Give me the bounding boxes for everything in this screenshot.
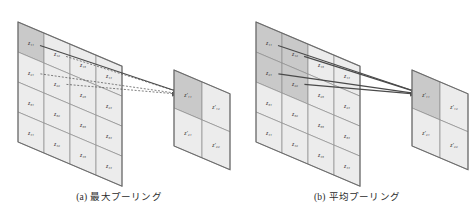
average-pooling-input-label-z41: z₄₁ xyxy=(265,130,272,136)
max-pooling-input-label-z13: z₁₃ xyxy=(79,62,86,68)
max-pooling-input-label-z14: z₁₄ xyxy=(105,73,112,79)
max-pooling-input-label-z32: z₃₂ xyxy=(53,111,60,117)
average-pooling-input-cells: z₁₁z₁₂z₁₃z₁₄z₂₁z₂₂z₂₃z₂₄z₃₁z₃₂z₃₃z₃₄z₄₁z… xyxy=(256,22,360,186)
caption-panel-b: (b)平均プーリング xyxy=(238,189,476,203)
caption-b-text: 平均プーリング xyxy=(329,192,400,202)
caption-a-text: 最大プーリング xyxy=(90,192,161,202)
max-pooling-input-label-z22: z₂₂ xyxy=(53,81,60,87)
average-pooling-output-label-zp22: z′₂₂ xyxy=(449,142,457,148)
average-pooling-input-label-z42: z₄₂ xyxy=(291,141,298,147)
average-pooling-input-label-z33: z₃₃ xyxy=(317,122,324,128)
max-pooling-output-cells: z′₁₁z′₁₂z′₂₁z′₂₂ xyxy=(174,70,230,170)
max-pooling-input-label-z43: z₄₃ xyxy=(79,152,86,158)
max-pooling-input-label-z33: z₃₃ xyxy=(79,122,86,128)
caption-b-label: (b) xyxy=(314,192,326,202)
average-pooling-input-label-z11: z₁₁ xyxy=(265,40,272,46)
average-pooling-output-cells: z′₁₁z′₁₂z′₂₁z′₂₂ xyxy=(412,70,468,170)
max-pooling-output-label-zp22: z′₂₂ xyxy=(211,142,219,148)
max-pooling-input-label-z44: z₄₄ xyxy=(105,163,112,169)
max-pooling-input-label-z23: z₂₃ xyxy=(79,92,86,98)
max-pooling-input-label-z31: z₃₁ xyxy=(27,100,34,106)
panel-max-pooling: z₁₁z₁₂z₁₃z₁₄z₂₁z₂₂z₂₃z₂₄z₃₁z₃₂z₃₃z₃₄z₄₁z… xyxy=(18,22,230,186)
average-pooling-input-label-z34: z₃₄ xyxy=(343,133,350,139)
max-pooling-input-label-z11: z₁₁ xyxy=(27,40,34,46)
average-pooling-output-label-zp12: z′₁₂ xyxy=(449,104,457,110)
max-pooling-input-label-z34: z₃₄ xyxy=(105,133,112,139)
caption-a-label: (a) xyxy=(76,192,87,202)
max-pooling-output-label-zp21: z′₂₁ xyxy=(183,130,191,136)
caption-row: (a)最大プーリング (b)平均プーリング xyxy=(0,189,476,203)
max-pooling-input-label-z42: z₄₂ xyxy=(53,141,60,147)
max-pooling-input-label-z41: z₄₁ xyxy=(27,130,34,136)
average-pooling-input-label-z31: z₃₁ xyxy=(265,100,272,106)
average-pooling-input-label-z22: z₂₂ xyxy=(291,81,298,87)
max-pooling-output-label-zp12: z′₁₂ xyxy=(211,104,219,110)
max-pooling-input-label-z24: z₂₄ xyxy=(105,103,112,109)
max-pooling-output-label-zp11: z′₁₁ xyxy=(183,92,191,98)
average-pooling-output-label-zp21: z′₂₁ xyxy=(421,130,429,136)
average-pooling-input-label-z21: z₂₁ xyxy=(265,70,272,76)
average-pooling-input-label-z44: z₄₄ xyxy=(343,163,350,169)
pooling-figure: z₁₁z₁₂z₁₃z₁₄z₂₁z₂₂z₂₃z₂₄z₃₁z₃₂z₃₃z₃₄z₄₁z… xyxy=(0,0,476,219)
max-pooling-input-label-z21: z₂₁ xyxy=(27,70,34,76)
average-pooling-input-label-z14: z₁₄ xyxy=(343,73,350,79)
average-pooling-output-label-zp11: z′₁₁ xyxy=(421,92,429,98)
average-pooling-input-label-z23: z₂₃ xyxy=(317,92,324,98)
panel-average-pooling: z₁₁z₁₂z₁₃z₁₄z₂₁z₂₂z₂₃z₂₄z₃₁z₃₂z₃₃z₃₄z₄₁z… xyxy=(256,22,468,186)
average-pooling-input-label-z32: z₃₂ xyxy=(291,111,298,117)
figure-canvas: z₁₁z₁₂z₁₃z₁₄z₂₁z₂₂z₂₃z₂₄z₃₁z₃₂z₃₃z₃₄z₄₁z… xyxy=(0,0,476,219)
average-pooling-input-label-z43: z₄₃ xyxy=(317,152,324,158)
average-pooling-input-label-z24: z₂₄ xyxy=(343,103,350,109)
caption-panel-a: (a)最大プーリング xyxy=(0,189,238,203)
max-pooling-input-cells: z₁₁z₁₂z₁₃z₁₄z₂₁z₂₂z₂₃z₂₄z₃₁z₃₂z₃₃z₃₄z₄₁z… xyxy=(18,22,122,186)
